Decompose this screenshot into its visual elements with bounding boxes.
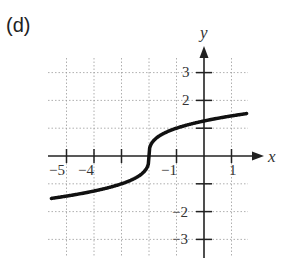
x-tick-label: −1 xyxy=(161,162,177,178)
x-tick-label: 1 xyxy=(229,162,237,178)
y-tick-label: 3 xyxy=(182,64,190,80)
y-axis-label: y xyxy=(198,23,208,42)
y-axis-arrow-icon xyxy=(200,46,209,58)
y-tick-label: 2 xyxy=(182,92,190,108)
y-tick-label: −3 xyxy=(172,231,188,247)
x-axis-arrow-icon xyxy=(252,152,264,161)
x-tick-label: −5 xyxy=(49,162,65,178)
y-axis xyxy=(200,46,209,258)
x-tick-label: −4 xyxy=(78,162,94,178)
x-axis-label: x xyxy=(267,147,276,166)
chart: x y −5 −4 −1 1 3 2 −2 −3 xyxy=(0,0,289,260)
y-tick-label: −2 xyxy=(172,204,188,220)
